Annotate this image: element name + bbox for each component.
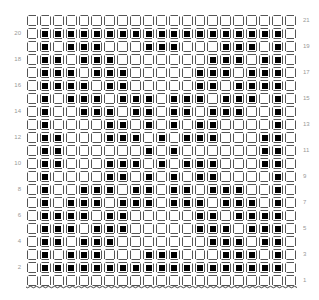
filled-square-icon [236, 239, 242, 245]
open-cell [116, 53, 129, 66]
open-cell [129, 40, 142, 53]
filled-square-icon [223, 31, 229, 37]
filled-square-icon [107, 213, 113, 219]
filled-square-icon [42, 44, 48, 50]
filled-cell [168, 183, 181, 196]
filled-square-icon [94, 96, 100, 102]
open-cell [26, 14, 39, 27]
filled-cell [168, 170, 181, 183]
filled-cell [142, 105, 155, 118]
open-cell [155, 118, 168, 131]
filled-square-icon [159, 44, 165, 50]
filled-square-icon [146, 44, 152, 50]
open-cell [219, 209, 232, 222]
open-cell [284, 118, 297, 131]
filled-square-icon [120, 70, 126, 76]
filled-cell [245, 66, 258, 79]
filled-cell [65, 209, 78, 222]
filled-square-icon [94, 187, 100, 193]
filled-cell [78, 53, 91, 66]
filled-square-icon [146, 109, 152, 115]
filled-cell [78, 79, 91, 92]
open-cell [65, 170, 78, 183]
filled-cell [206, 183, 219, 196]
filled-square-icon [94, 31, 100, 37]
filled-square-icon [236, 31, 242, 37]
open-cell [78, 118, 91, 131]
filled-cell [232, 261, 245, 274]
filled-cell [155, 131, 168, 144]
filled-square-icon [210, 174, 216, 180]
open-cell [284, 92, 297, 105]
filled-square-icon [81, 187, 87, 193]
filled-square-icon [210, 213, 216, 219]
filled-cell [206, 118, 219, 131]
filled-cell [232, 40, 245, 53]
filled-square-icon [249, 70, 255, 76]
filled-cell [103, 261, 116, 274]
filled-square-icon [262, 31, 268, 37]
pattern-grid [26, 14, 297, 287]
open-cell [206, 40, 219, 53]
filled-cell [258, 66, 271, 79]
filled-square-icon [262, 57, 268, 63]
filled-cell [219, 92, 232, 105]
filled-cell [78, 183, 91, 196]
open-cell [181, 118, 194, 131]
open-cell [65, 144, 78, 157]
filled-square-icon [275, 70, 281, 76]
filled-square-icon [133, 187, 139, 193]
filled-cell [90, 196, 103, 209]
grid-row-15 [26, 92, 297, 105]
open-cell [245, 53, 258, 66]
filled-square-icon [184, 96, 190, 102]
filled-cell [65, 66, 78, 79]
open-cell [142, 66, 155, 79]
open-cell [181, 209, 194, 222]
row-number-label: 21 [303, 17, 315, 24]
filled-cell [52, 157, 65, 170]
filled-square-icon [275, 31, 281, 37]
filled-cell [194, 170, 207, 183]
open-cell [168, 235, 181, 248]
filled-square-icon [210, 70, 216, 76]
filled-square-icon [236, 109, 242, 115]
filled-cell [181, 183, 194, 196]
grid-row-6 [26, 209, 297, 222]
filled-cell [181, 92, 194, 105]
filled-square-icon [197, 96, 203, 102]
filled-cell [219, 222, 232, 235]
filled-cell [271, 118, 284, 131]
filled-square-icon [171, 148, 177, 154]
filled-cell [155, 40, 168, 53]
filled-square-icon [81, 44, 87, 50]
filled-cell [116, 170, 129, 183]
open-cell [78, 170, 91, 183]
filled-cell [129, 27, 142, 40]
filled-cell [103, 53, 116, 66]
filled-square-icon [210, 83, 216, 89]
open-cell [181, 248, 194, 261]
open-cell [284, 53, 297, 66]
filled-square-icon [146, 265, 152, 271]
open-cell [52, 105, 65, 118]
filled-square-icon [159, 161, 165, 167]
filled-cell [39, 170, 52, 183]
filled-square-icon [171, 174, 177, 180]
filled-square-icon [120, 226, 126, 232]
open-cell [181, 235, 194, 248]
grid-row-14 [26, 105, 297, 118]
filled-cell [194, 131, 207, 144]
filled-cell [103, 183, 116, 196]
filled-cell [129, 183, 142, 196]
filled-cell [52, 66, 65, 79]
filled-cell [168, 27, 181, 40]
open-cell [90, 209, 103, 222]
grid-row-10 [26, 157, 297, 170]
filled-cell [271, 79, 284, 92]
filled-cell [90, 183, 103, 196]
open-cell [142, 131, 155, 144]
filled-cell [103, 79, 116, 92]
filled-cell [116, 92, 129, 105]
filled-cell [245, 27, 258, 40]
